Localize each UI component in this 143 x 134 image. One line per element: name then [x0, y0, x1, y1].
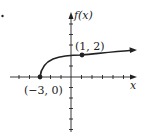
function-graph: f(x) x (1, 2) (−3, 0)	[0, 0, 143, 134]
point-b-label: (1, 2)	[75, 40, 105, 53]
bullet-dot	[1, 15, 3, 17]
point-1-2	[80, 53, 85, 58]
x-axis	[10, 75, 133, 79]
y-axis-arrow-icon	[69, 12, 74, 19]
curve-arrow-icon	[130, 47, 138, 53]
point-neg3-0	[38, 75, 43, 80]
point-a-label: (−3, 0)	[24, 84, 63, 97]
x-axis-label: x	[130, 79, 137, 92]
y-axis-label: f(x)	[73, 9, 93, 22]
function-curve	[40, 51, 130, 78]
y-axis	[69, 18, 73, 132]
